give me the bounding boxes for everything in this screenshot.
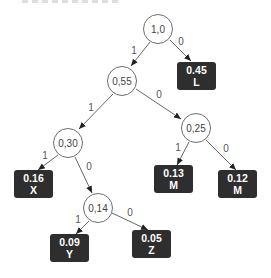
edge-label-014-Y: 1 [73,215,83,225]
edge-label-055-025: 0 [154,90,164,100]
leaf-symbol: Z [148,244,154,256]
leaf-symbol: M [233,184,242,196]
edge-label-030-014: 0 [84,162,94,172]
leaf-L: 0.45 L [177,62,216,90]
edge-label-025-M2: 0 [221,144,231,154]
edge-label-root-055: 1 [129,46,139,56]
leaf-value: 0.05 [141,232,161,244]
leaf-Z: 0.05 Z [132,230,171,258]
leaf-symbol: X [30,184,37,196]
edge-label-root-L: 0 [176,37,186,47]
leaf-value: 0.12 [227,172,247,184]
node-030: 0,30 [53,128,83,158]
leaf-M1: 0.13 M [154,165,193,193]
leaf-value: 0.16 [23,172,43,184]
node-055: 0,55 [107,66,137,96]
edge-label-055-030: 1 [86,103,96,113]
edge-label-030-X: 1 [40,151,50,161]
leaf-value: 0.09 [59,236,79,248]
leaf-symbol: Y [66,248,73,260]
edge-label-025-M1: 1 [173,143,183,153]
node-014: 0,14 [83,193,113,223]
node-025: 0,25 [181,113,211,143]
leaf-value: 0.45 [186,64,206,76]
leaf-Y: 0.09 Y [50,234,89,262]
huffman-tree-diagram: 1,0 0,55 0,25 0,30 0,14 0.45 L 0.16 X 0.… [0,0,271,278]
leaf-X: 0.16 X [14,170,53,198]
leaf-symbol: M [169,179,178,191]
edge-label-014-Z: 0 [125,208,135,218]
leaf-symbol: L [193,76,199,88]
edge-055-to-030 [79,94,113,129]
leaf-M2: 0.12 M [218,170,257,198]
leaf-value: 0.13 [163,167,183,179]
node-root: 1,0 [143,14,173,44]
